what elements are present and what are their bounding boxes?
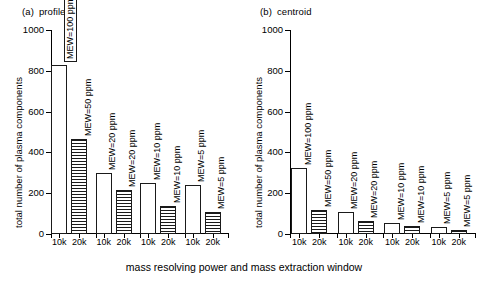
x-tick-group-edge [475,234,476,238]
bar [140,183,156,234]
y-tick-label: 600 [267,107,283,117]
panel-a-label: profile [39,6,66,17]
x-tick-label: 10k [292,237,307,247]
x-tick-group-edge [337,234,338,238]
bar [311,210,327,234]
y-tick-label: 800 [267,66,283,76]
panel-a-y-axis-label: total number of plasma components [13,77,24,228]
y-tick-label: 0 [278,229,283,239]
bar-annotation: MEW=100 ppm [304,102,313,164]
x-tick-label: 20k [451,237,466,247]
bar [358,221,374,234]
x-tick-label: 10k [141,237,156,247]
bar-annotation: MEW=20 ppm [128,130,137,187]
x-tick-label: 20k [205,237,220,247]
bar-annotation: MEW=5 ppm [443,172,452,224]
bar [116,190,132,234]
bar-annotation: MEW=10 ppm [173,146,182,203]
bar-annotation: MEW=100 ppm [64,0,77,62]
panel-profile: (a)profile total number of plasma compon… [0,0,244,258]
bar [96,173,112,234]
x-tick-label: 10k [385,237,400,247]
x-tick-group-edge [228,234,229,238]
panel-a-tag: (a) [22,6,34,17]
panel-b-title: (b)centroid [260,6,312,17]
y-tick-label: 200 [267,188,283,198]
bar-annotation: MEW=10 ppm [153,123,162,180]
panel-b-tag: (b) [260,6,272,17]
bar-annotation: MEW=5 ppm [217,156,226,208]
x-tick-label: 20k [72,237,87,247]
y-tick-label: 200 [28,188,44,198]
x-tick-label: 20k [312,237,327,247]
x-tick-label: 20k [358,237,373,247]
panel-b-y-axis-label: total number of plasma components [253,77,264,228]
y-tick-label: 400 [267,148,283,158]
x-tick-group-edge [51,234,52,238]
x-axis-caption: mass resolving power and mass extraction… [0,261,488,273]
x-tick-label: 10k [52,237,67,247]
bar [205,212,221,234]
bar-annotation: MEW=20 ppm [370,161,379,218]
x-tick-group-edge [140,234,141,238]
panel-a-bars: MEW=100 ppmMEW=50 ppmMEW=20 ppmMEW=20 pp… [51,30,229,234]
panel-b-plot-area: 02004006008001000 MEW=100 ppmMEW=50 ppmM… [290,30,476,234]
x-tick-label: 10k [185,237,200,247]
bar-annotation: MEW=10 ppm [417,166,426,223]
x-tick-label: 10k [96,237,111,247]
panel-b-label: centroid [277,6,312,17]
y-tick-label: 1000 [262,25,283,35]
panel-a-plot-area: 02004006008001000 MEW=100 ppmMEW=50 ppmM… [51,30,229,234]
x-tick-label: 10k [338,237,353,247]
bar-annotation: MEW=5 ppm [463,174,472,226]
x-tick-group-edge [185,234,186,238]
figure-root: (a)profile total number of plasma compon… [0,0,488,282]
bar [51,65,67,234]
x-tick-label: 20k [116,237,131,247]
x-tick-group-edge [383,234,384,238]
bar [291,168,307,234]
bar-annotation: MEW=20 ppm [108,113,117,170]
x-tick-group-edge [430,234,431,238]
bar [404,226,420,234]
bar-annotation: MEW=10 ppm [397,163,406,220]
bar [71,139,87,234]
bar [384,223,400,234]
bar-annotation: MEW=50 ppm [324,150,333,207]
y-tick-label: 400 [28,148,44,158]
bar [185,185,201,234]
x-tick-group-edge [96,234,97,238]
bar-annotation: MEW=50 ppm [84,79,93,136]
x-tick-group-edge [290,234,291,238]
panel-centroid: (b)centroid total number of plasma compo… [244,0,488,258]
y-tick-label: 800 [28,66,44,76]
bar-annotation: MEW=5 ppm [197,130,206,182]
panel-b-bars: MEW=100 ppmMEW=50 ppmMEW=20 ppmMEW=20 pp… [290,30,476,234]
panel-a-title: (a)profile [22,6,66,17]
x-tick-label: 20k [161,237,176,247]
bar-annotation: MEW=20 ppm [350,151,359,208]
y-tick-label: 1000 [23,25,44,35]
bar [338,212,354,234]
y-tick-label: 0 [39,229,44,239]
y-tick-label: 600 [28,107,44,117]
x-tick-label: 20k [405,237,420,247]
bar [160,206,176,234]
x-tick-label: 10k [431,237,446,247]
